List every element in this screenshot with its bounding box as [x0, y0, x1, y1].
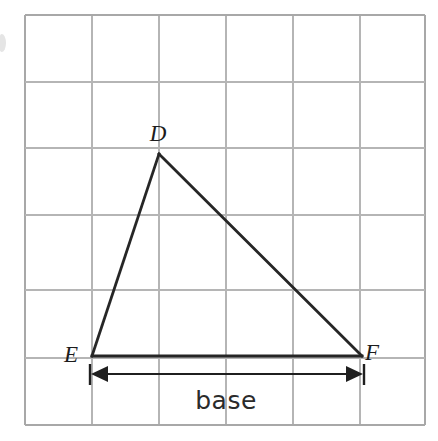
base-dimension: base — [90, 364, 364, 415]
page-edge-artifact — [0, 34, 6, 52]
triangle-DEF — [92, 154, 362, 356]
vertex-label-F: F — [364, 340, 380, 365]
vertex-label-D: D — [149, 121, 167, 146]
base-label: base — [195, 386, 257, 415]
figure-canvas: D E F base — [0, 0, 438, 441]
vertex-label-E: E — [63, 342, 78, 367]
triangle-edge-DF — [159, 154, 362, 356]
geometry-figure: D E F base — [0, 0, 438, 441]
triangle-edge-ED — [92, 154, 159, 356]
arrow-head-left-icon — [91, 366, 108, 382]
